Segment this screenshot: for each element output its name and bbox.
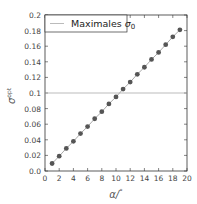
y-axis-label: σopt bbox=[5, 87, 17, 104]
x-tick-label: 20 bbox=[182, 174, 192, 183]
y-tick-label: 0.0 bbox=[29, 167, 41, 176]
data-point bbox=[170, 34, 175, 39]
data-point bbox=[135, 72, 140, 77]
data-point bbox=[99, 109, 104, 114]
legend: Maximales σ0 bbox=[45, 15, 135, 32]
data-point bbox=[50, 161, 55, 166]
y-tick-label: 0.08 bbox=[24, 105, 41, 114]
x-tick-label: 6 bbox=[85, 174, 90, 183]
data-point bbox=[71, 139, 76, 144]
y-axis-ticks: 0.00.020.040.060.080.10.120.140.160.180.… bbox=[24, 11, 187, 176]
data-point bbox=[107, 102, 112, 107]
y-tick-label: 0.18 bbox=[24, 27, 41, 36]
chart: 0.00.020.040.060.080.10.120.140.160.180.… bbox=[0, 0, 197, 204]
data-point bbox=[163, 42, 168, 47]
y-tick-label: 0.04 bbox=[24, 136, 41, 145]
data-point bbox=[64, 146, 69, 151]
x-tick-label: 8 bbox=[99, 174, 104, 183]
data-point bbox=[142, 65, 147, 70]
y-tick-label: 0.06 bbox=[24, 120, 41, 129]
y-tick-label: 0.14 bbox=[24, 58, 41, 67]
data-point bbox=[92, 116, 97, 121]
y-tick-label: 0.1 bbox=[29, 89, 41, 98]
x-tick-label: 10 bbox=[111, 174, 121, 183]
data-point bbox=[114, 95, 119, 100]
data-point bbox=[149, 57, 154, 62]
data-point bbox=[178, 27, 183, 32]
data-point bbox=[78, 131, 83, 136]
x-tick-label: 18 bbox=[168, 174, 178, 183]
y-tick-label: 0.12 bbox=[24, 73, 41, 82]
x-tick-label: 14 bbox=[140, 174, 150, 183]
x-tick-label: 12 bbox=[125, 174, 135, 183]
data-point bbox=[57, 154, 62, 159]
x-tick-label: 2 bbox=[57, 174, 62, 183]
data-point bbox=[156, 50, 161, 55]
x-tick-label: 0 bbox=[43, 174, 48, 183]
x-tick-label: 4 bbox=[71, 174, 76, 183]
y-tick-label: 0.02 bbox=[24, 151, 41, 160]
y-tick-label: 0.16 bbox=[24, 42, 41, 51]
data-point bbox=[121, 87, 126, 92]
x-axis-label: α/° bbox=[109, 188, 122, 200]
x-tick-label: 16 bbox=[154, 174, 164, 183]
y-tick-label: 0.2 bbox=[29, 11, 41, 20]
data-point bbox=[85, 124, 90, 129]
data-point bbox=[128, 80, 133, 85]
